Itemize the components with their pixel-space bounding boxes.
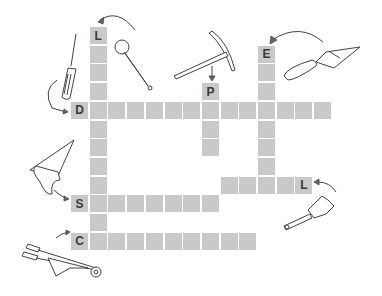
answer-cell[interactable]: [127, 233, 144, 250]
answer-cell[interactable]: [90, 102, 107, 119]
answer-cell[interactable]: [108, 102, 125, 119]
answer-cell[interactable]: [277, 102, 294, 119]
answer-cell[interactable]: [258, 139, 275, 156]
answer-cell[interactable]: [183, 195, 200, 212]
answer-cell[interactable]: [221, 102, 238, 119]
answer-cell[interactable]: [202, 139, 219, 156]
answer-cell[interactable]: [90, 195, 107, 212]
answer-cell[interactable]: [258, 83, 275, 100]
answer-cell[interactable]: [90, 139, 107, 156]
answer-cell[interactable]: [183, 102, 200, 119]
answer-cell[interactable]: [202, 195, 219, 212]
answer-cell[interactable]: [239, 233, 256, 250]
answer-cell[interactable]: [90, 121, 107, 138]
answer-cell[interactable]: [108, 233, 125, 250]
clue-letter-cell: L: [90, 27, 107, 44]
crossword-puzzle: LDPELSC: [0, 0, 382, 296]
answer-cell[interactable]: [202, 233, 219, 250]
answer-cell[interactable]: [90, 177, 107, 194]
answer-cell[interactable]: [165, 233, 182, 250]
clue-letter-cell: E: [258, 46, 275, 63]
answer-cell[interactable]: [108, 195, 125, 212]
answer-cell[interactable]: [90, 233, 107, 250]
clue-letter-cell: L: [295, 177, 312, 194]
answer-cell[interactable]: [277, 177, 294, 194]
answer-cell[interactable]: [258, 64, 275, 81]
answer-cell[interactable]: [221, 177, 238, 194]
answer-cell[interactable]: [90, 64, 107, 81]
answer-cell[interactable]: [165, 102, 182, 119]
clue-letter-cell: C: [71, 233, 88, 250]
answer-cell[interactable]: [90, 158, 107, 175]
answer-cell[interactable]: [146, 102, 163, 119]
answer-cell[interactable]: [127, 102, 144, 119]
answer-cell[interactable]: [258, 158, 275, 175]
answer-cell[interactable]: [239, 177, 256, 194]
saw-icon: [30, 140, 74, 201]
tool-illustrations: [0, 0, 382, 296]
answer-cell[interactable]: [146, 195, 163, 212]
answer-cell[interactable]: [239, 102, 256, 119]
clue-letter-cell: S: [71, 195, 88, 212]
pickaxe-icon: [174, 31, 235, 81]
answer-cell[interactable]: [258, 121, 275, 138]
answer-cell[interactable]: [314, 102, 331, 119]
answer-cell[interactable]: [90, 46, 107, 63]
answer-cell[interactable]: [127, 195, 144, 212]
answer-cell[interactable]: [146, 233, 163, 250]
answer-cell[interactable]: [258, 177, 275, 194]
answer-cell[interactable]: [202, 121, 219, 138]
answer-cell[interactable]: [183, 233, 200, 250]
trowel-icon: [270, 31, 360, 80]
answer-cell[interactable]: [165, 195, 182, 212]
answer-cell[interactable]: [258, 102, 275, 119]
answer-cell[interactable]: [295, 102, 312, 119]
clue-letter-cell: P: [202, 83, 219, 100]
answer-cell[interactable]: [202, 102, 219, 119]
answer-cell[interactable]: [221, 233, 238, 250]
answer-cell[interactable]: [90, 214, 107, 231]
answer-cell[interactable]: [90, 83, 107, 100]
clue-letter-cell: D: [71, 102, 88, 119]
